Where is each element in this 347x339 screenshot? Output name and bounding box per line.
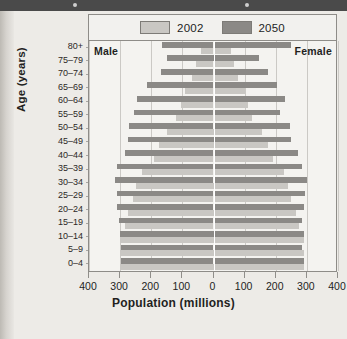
male-side-label: Male xyxy=(94,45,118,57)
bar-male-2002 xyxy=(192,75,214,81)
y-axis-tick-label: 75–79 xyxy=(58,56,83,65)
y-axis-tick-label: 30–34 xyxy=(58,178,83,187)
age-group-row xyxy=(89,203,336,217)
y-axis-tick-label: 15–19 xyxy=(58,218,83,227)
x-axis-tick-label: 300 xyxy=(110,280,128,292)
age-group-row xyxy=(89,95,336,109)
page-header-strip xyxy=(0,0,347,11)
x-axis-tick-labels: 4003002001000100200300400 xyxy=(70,280,347,294)
header-dot-right xyxy=(245,3,249,7)
x-axis-tick xyxy=(150,272,151,278)
bar-female-2002 xyxy=(214,142,268,148)
y-axis-tick-label: 65–69 xyxy=(58,83,83,92)
bar-male-2002 xyxy=(181,102,214,108)
x-axis-tick-label: 100 xyxy=(173,280,191,292)
bar-female-2002 xyxy=(214,250,304,256)
bar-male-2002 xyxy=(196,61,213,67)
bar-female-2002 xyxy=(214,183,289,189)
age-group-row xyxy=(89,163,336,177)
y-axis-tick-label: 5–9 xyxy=(68,245,83,254)
legend-item-2050[interactable]: 2050 xyxy=(222,21,285,34)
age-group-row xyxy=(89,190,336,204)
x-axis-tick xyxy=(244,272,245,278)
bar-female-2002 xyxy=(214,223,300,229)
bar-female-2002 xyxy=(214,129,262,135)
bar-female-2002 xyxy=(214,210,296,216)
y-axis-title: Age (years) xyxy=(15,47,27,112)
bar-male-2002 xyxy=(201,48,213,54)
age-group-row xyxy=(89,82,336,96)
y-axis-tick-label: 70–74 xyxy=(58,69,83,78)
bar-male-2002 xyxy=(120,264,213,270)
age-group-row xyxy=(89,257,336,271)
bar-female-2002 xyxy=(214,61,234,67)
y-axis-tick-label: 0–4 xyxy=(68,259,83,268)
x-axis-tick xyxy=(306,272,307,278)
y-axis-tick-label: 35–39 xyxy=(58,164,83,173)
age-group-row xyxy=(89,122,336,136)
x-axis-tick xyxy=(119,272,120,278)
x-axis-tick-label: 100 xyxy=(235,280,253,292)
legend-label-2050: 2050 xyxy=(259,22,285,34)
x-axis-tick-label: 200 xyxy=(266,280,284,292)
bar-female-2002 xyxy=(214,48,231,54)
gridline xyxy=(338,41,339,271)
dark-gray-swatch-icon xyxy=(222,21,252,34)
bar-male-2002 xyxy=(120,250,213,256)
bar-male-2002 xyxy=(176,115,213,121)
age-group-row xyxy=(89,230,336,244)
age-group-row xyxy=(89,68,336,82)
bar-male-2002 xyxy=(128,210,214,216)
x-axis-tick-label: 300 xyxy=(297,280,315,292)
y-axis-tick-label: 60–64 xyxy=(58,96,83,105)
bar-male-2002 xyxy=(167,129,214,135)
bar-male-2002 xyxy=(125,223,214,229)
x-axis-title: Population (millions) xyxy=(0,296,347,310)
x-axis-tick xyxy=(213,272,214,278)
bar-male-2002 xyxy=(142,169,214,175)
bar-female-2002 xyxy=(214,169,284,175)
bar-female-2002 xyxy=(214,115,253,121)
page-root: Age (years) 80+75–7970–7465–6960–6455–59… xyxy=(0,0,347,339)
bar-male-2002 xyxy=(120,237,213,243)
bar-female-2002 xyxy=(214,237,304,243)
bar-rows xyxy=(89,41,336,271)
bar-male-2002 xyxy=(154,156,213,162)
y-axis-tick-label: 80+ xyxy=(68,42,83,51)
bar-female-2002 xyxy=(214,102,248,108)
bar-male-2002 xyxy=(159,142,213,148)
age-group-row xyxy=(89,244,336,258)
bar-male-2002 xyxy=(185,88,213,94)
y-axis-tick-label: 20–24 xyxy=(58,205,83,214)
age-group-row xyxy=(89,109,336,123)
chart-figure: 2002 2050 Male Female xyxy=(88,14,337,272)
y-axis-tick-label: 50–54 xyxy=(58,123,83,132)
bar-female-2002 xyxy=(214,156,273,162)
y-axis-tick-labels: 80+75–7970–7465–6960–6455–5950–5445–4940… xyxy=(40,40,86,270)
age-group-row xyxy=(89,149,336,163)
paper-edge-artifact xyxy=(0,11,14,339)
x-axis-tick xyxy=(275,272,276,278)
legend-item-2002[interactable]: 2002 xyxy=(140,21,203,34)
zero-axis-line xyxy=(214,41,216,271)
bar-male-2002 xyxy=(133,196,214,202)
female-side-label: Female xyxy=(295,45,332,57)
bar-female-2002 xyxy=(214,75,239,81)
y-axis-tick-label: 55–59 xyxy=(58,110,83,119)
x-axis-tick-label: 200 xyxy=(141,280,159,292)
x-axis-tick xyxy=(88,272,89,278)
y-axis-tick-label: 25–29 xyxy=(58,191,83,200)
plot-inner: Male Female xyxy=(89,41,336,271)
bar-female-2002 xyxy=(214,196,292,202)
bar-male-2002 xyxy=(136,183,214,189)
plot-area: Male Female xyxy=(89,41,336,271)
x-axis-tick xyxy=(337,272,338,278)
bar-female-2002 xyxy=(214,88,245,94)
chart-legend: 2002 2050 xyxy=(89,15,336,41)
bar-female-2002 xyxy=(214,264,304,270)
y-axis-tick-label: 45–49 xyxy=(58,137,83,146)
header-dot-left xyxy=(73,3,77,7)
age-group-row xyxy=(89,217,336,231)
x-axis-tick xyxy=(181,272,182,278)
y-axis-tick-label: 40–44 xyxy=(58,151,83,160)
